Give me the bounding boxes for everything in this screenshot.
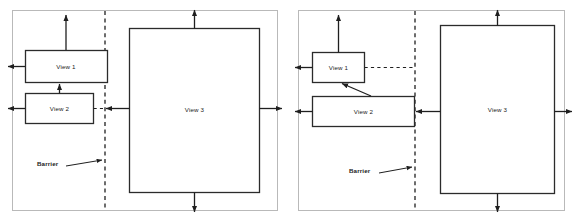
right-view2-label: View 2 [354,108,374,115]
right-view3-label: View 3 [488,106,508,113]
figure-root: View 1 View 2 View 3 [0,0,577,221]
diagram-canvas: View 1 View 2 View 3 [0,0,577,221]
left-barrier-label: Barrier [37,160,59,167]
right-barrier-label: Barrier [349,167,371,174]
right-panel: View 1 View 2 View 3 [295,10,572,212]
left-view3-label: View 3 [185,106,205,113]
left-panel: View 1 View 2 View 3 [8,10,282,212]
right-view1-label: View 1 [329,64,349,71]
left-view2-label: View 2 [50,105,70,112]
left-view1-label: View 1 [56,63,76,70]
